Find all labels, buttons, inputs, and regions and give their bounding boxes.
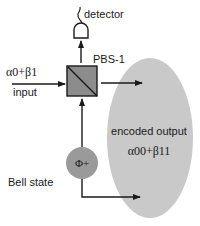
- input-label: input: [13, 86, 37, 98]
- pbs-label: PBS-1: [93, 53, 125, 65]
- detector-icon: [74, 23, 88, 38]
- encoded-output-ellipse: [107, 58, 193, 218]
- bell-symbol-label: Φ+: [75, 157, 89, 169]
- output-title-label: encoded output: [111, 125, 187, 137]
- output-state-label: α00+β11: [128, 144, 171, 158]
- detector-wire: [78, 7, 82, 23]
- detector-label: detector: [84, 8, 124, 20]
- input-state-label: α0+β1: [6, 65, 37, 79]
- diagram-canvas: detector PBS-1 α0+β1 input Φ+ Bell state…: [0, 0, 200, 226]
- bell-state-label: Bell state: [8, 176, 53, 188]
